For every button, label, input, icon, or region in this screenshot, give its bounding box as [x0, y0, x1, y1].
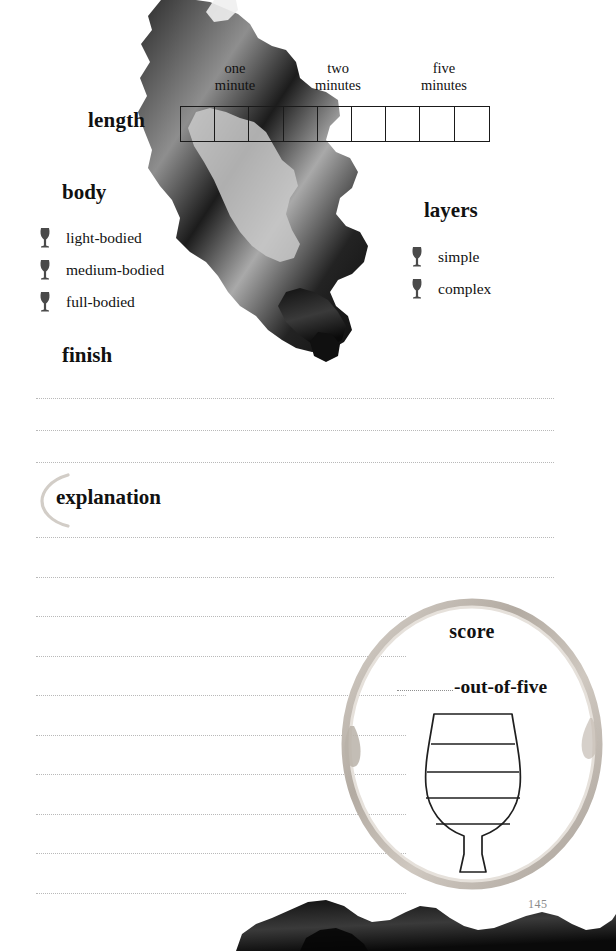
layers-option-simple[interactable]: simple: [410, 241, 491, 273]
length-scale-box-5[interactable]: [318, 107, 352, 141]
top-ink-blot: [138, 0, 368, 352]
tick-line-1: two: [293, 60, 383, 77]
length-scale-box-2[interactable]: [215, 107, 249, 141]
body-option-light-bodied[interactable]: light-bodied: [38, 222, 164, 254]
length-scale-box-7[interactable]: [386, 107, 420, 141]
score-value-row: -out-of-five: [340, 676, 604, 698]
finish-rule-line-3[interactable]: [36, 462, 554, 463]
score-suffix-label: -out-of-five: [454, 676, 547, 697]
explanation-rule-line-10[interactable]: [36, 893, 406, 894]
layers-option-label: complex: [438, 280, 491, 298]
bottom-ink-blot: [236, 900, 616, 951]
layers-option-list: simplecomplex: [410, 241, 491, 305]
score-section: score -out-of-five: [340, 598, 604, 890]
length-scale-box-3[interactable]: [249, 107, 283, 141]
wine-glass-icon[interactable]: [38, 227, 52, 249]
finish-rule-line-1[interactable]: [36, 398, 554, 399]
body-option-label: light-bodied: [66, 229, 142, 247]
finish-heading: finish: [62, 343, 112, 368]
layers-option-label: simple: [438, 248, 479, 266]
ink-speck: [310, 332, 340, 362]
tick-line-1: five: [399, 60, 489, 77]
wine-tasting-journal-page: length one minute two minutes five minut…: [0, 0, 616, 951]
length-scale-box-1[interactable]: [181, 107, 215, 141]
length-label: length: [88, 108, 145, 133]
explanation-heading: explanation: [56, 485, 161, 510]
layers-option-complex[interactable]: complex: [410, 273, 491, 305]
body-option-label: medium-bodied: [66, 261, 164, 279]
explanation-rule-line-2[interactable]: [36, 577, 554, 578]
tick-line-2: minute: [190, 77, 280, 94]
body-heading: body: [62, 180, 106, 205]
length-scale-box-4[interactable]: [284, 107, 318, 141]
score-heading: score: [340, 620, 604, 643]
length-tick-one-minute: one minute: [190, 60, 280, 94]
length-scale-boxes[interactable]: [180, 106, 490, 142]
length-tick-two-minutes: two minutes: [293, 60, 383, 94]
length-scale-box-8[interactable]: [420, 107, 454, 141]
wine-glass-icon[interactable]: [410, 278, 424, 300]
length-tick-labels: one minute two minutes five minutes: [180, 60, 498, 104]
wine-glass-icon[interactable]: [38, 291, 52, 313]
score-wine-glass-icon[interactable]: [412, 706, 534, 876]
wine-glass-icon[interactable]: [410, 246, 424, 268]
score-input-blank[interactable]: [397, 690, 453, 691]
length-scale-box-6[interactable]: [352, 107, 386, 141]
length-tick-five-minutes: five minutes: [399, 60, 489, 94]
body-option-label: full-bodied: [66, 293, 135, 311]
tick-line-2: minutes: [399, 77, 489, 94]
layers-heading: layers: [424, 198, 478, 223]
tick-line-2: minutes: [293, 77, 383, 94]
explanation-rule-line-1[interactable]: [36, 537, 554, 538]
wine-glass-icon[interactable]: [38, 259, 52, 281]
tick-line-1: one: [190, 60, 280, 77]
page-number: 145: [528, 897, 548, 912]
length-scale-box-9[interactable]: [455, 107, 489, 141]
body-option-full-bodied[interactable]: full-bodied: [38, 286, 164, 318]
finish-rule-line-2[interactable]: [36, 430, 554, 431]
body-option-medium-bodied[interactable]: medium-bodied: [38, 254, 164, 286]
body-option-list: light-bodiedmedium-bodiedfull-bodied: [38, 222, 164, 318]
